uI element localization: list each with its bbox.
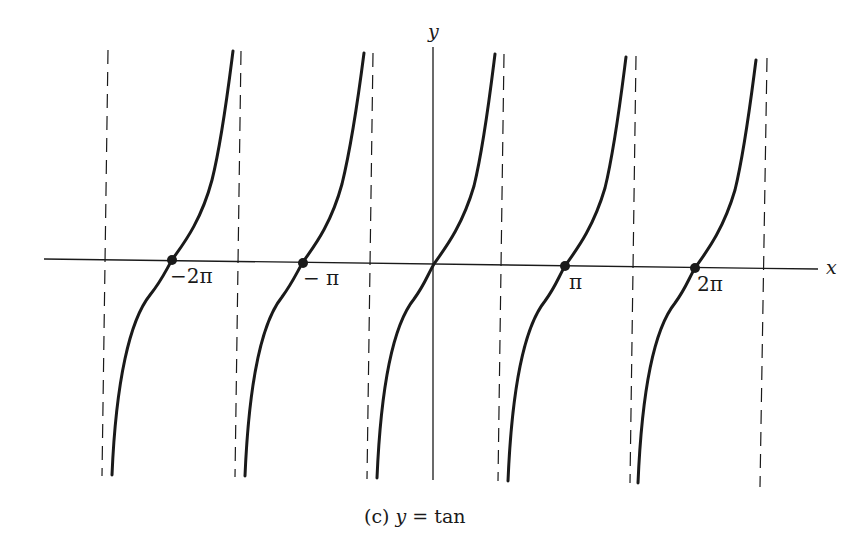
asymptote-pi-2 xyxy=(498,54,504,481)
caption-variable: y xyxy=(396,505,407,527)
asymptote-neg-pi-2 xyxy=(367,53,373,479)
tan-graph xyxy=(0,0,868,543)
asymptote-3pi-2 xyxy=(630,56,636,483)
asymptote-neg-5pi-2 xyxy=(102,50,108,476)
x-axis-label: x xyxy=(826,256,837,278)
figure-caption: (c) y = tan xyxy=(364,505,465,527)
tick-label-neg-pi: − π xyxy=(303,266,339,290)
caption-rest: = tan xyxy=(412,505,465,527)
tick-label-pi: π xyxy=(569,270,582,294)
y-axis-label: y xyxy=(428,20,439,42)
asymptote-neg-3pi-2 xyxy=(235,51,241,477)
branch-0 xyxy=(377,54,495,478)
asymptote-5pi-2 xyxy=(760,58,767,487)
tick-label-neg-2pi: −2π xyxy=(170,264,213,288)
tick-label-2pi: 2π xyxy=(697,272,723,296)
caption-prefix: (c) xyxy=(364,505,389,527)
